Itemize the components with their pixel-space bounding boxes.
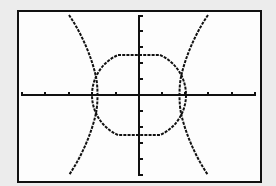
graph-plot [0,0,276,186]
